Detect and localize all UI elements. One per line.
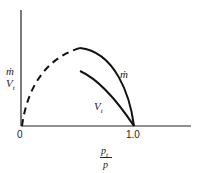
- curve-label-vt: Vt: [94, 101, 103, 117]
- curve-label-mdot: ṁ: [120, 69, 128, 80]
- m-dot-curve-dashed: [22, 48, 80, 126]
- y-label-mdot: ṁ: [6, 66, 14, 77]
- y-label-v-sub: t: [13, 84, 15, 92]
- y-label-vt: Vt: [6, 78, 15, 94]
- x-tick-0: 0: [17, 130, 23, 140]
- curve-label-v-sub: t: [101, 107, 103, 115]
- x-label-fraction-bar: [100, 157, 112, 158]
- y-label-v: V: [6, 77, 13, 89]
- x-tick-1: 1.0: [126, 130, 140, 140]
- x-label-denominator: p: [103, 159, 108, 170]
- curve-label-v: V: [94, 100, 101, 112]
